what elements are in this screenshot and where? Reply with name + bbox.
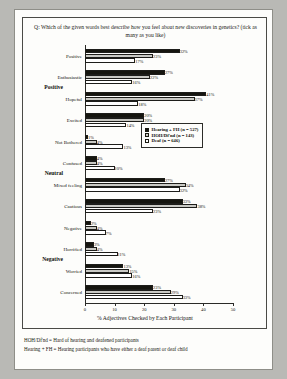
bar-value-label: 18% bbox=[138, 101, 146, 106]
legend-item: Hearing + FH (n = 527) bbox=[145, 127, 198, 132]
legend-swatch-icon bbox=[145, 128, 149, 132]
bar: 13% bbox=[85, 144, 123, 148]
bar-value-label: 22% bbox=[150, 75, 158, 80]
bar-value-label: 27% bbox=[165, 70, 173, 75]
bar: 4% bbox=[85, 247, 97, 251]
bar: 23% bbox=[85, 209, 153, 213]
category-label: Mixed feeling bbox=[54, 182, 82, 187]
bar: 16% bbox=[85, 80, 132, 84]
bar-row: Hopeful41%37%18% bbox=[85, 88, 233, 110]
bar: 14% bbox=[85, 123, 126, 127]
group-label: Positive bbox=[29, 84, 63, 90]
category-label: Concerned bbox=[60, 290, 82, 295]
bar: 7% bbox=[85, 230, 106, 234]
category-label: Confused bbox=[63, 161, 82, 166]
bar-value-label: 32% bbox=[180, 48, 188, 53]
bar: 10% bbox=[85, 166, 115, 170]
bar: 4% bbox=[85, 156, 97, 160]
category-label: Not Bothered bbox=[55, 139, 82, 144]
category-label: Positive bbox=[66, 53, 82, 58]
x-tick-label: 30 bbox=[172, 307, 177, 312]
bar: 1% bbox=[85, 135, 88, 139]
category-label: Cautious bbox=[64, 204, 82, 209]
bar-value-label: 38% bbox=[197, 204, 205, 209]
document-page: Q: Which of the given words best describ… bbox=[14, 9, 273, 370]
category-label: Negative bbox=[64, 225, 82, 230]
x-tick bbox=[85, 303, 86, 306]
x-tick-label: 50 bbox=[231, 307, 236, 312]
bar-value-label: 37% bbox=[195, 96, 203, 101]
chart-figure: Q: Which of the given words best describ… bbox=[22, 17, 267, 329]
bar-value-label: 10% bbox=[115, 166, 123, 171]
bar-row: Positive32%23%17% bbox=[85, 45, 233, 67]
bar-value-label: 32% bbox=[180, 187, 188, 192]
bar: 3% bbox=[85, 242, 94, 246]
legend-swatch-icon bbox=[145, 133, 149, 137]
x-tick bbox=[203, 303, 204, 306]
bar: 32% bbox=[85, 187, 180, 191]
bar-value-label: 16% bbox=[132, 80, 140, 85]
bar: 33% bbox=[85, 199, 183, 203]
bar: 29% bbox=[85, 290, 171, 294]
footnotes: HOH/Df'nd = Hard of hearing and deafened… bbox=[24, 336, 256, 353]
bar-row: Horrified3%4%11% bbox=[85, 239, 233, 261]
plot-area: 01020304050 Positive32%23%17%Enthusiasti… bbox=[85, 45, 233, 303]
bar: 17% bbox=[85, 58, 135, 62]
bar: 27% bbox=[85, 178, 165, 182]
bar-value-label: 11% bbox=[118, 252, 126, 257]
bar-row: Cautious33%38%23% bbox=[85, 196, 233, 218]
chart-legend: Hearing + FH (n = 527) HOH/Df'nd (n = 14… bbox=[141, 123, 203, 148]
bar: 18% bbox=[85, 101, 138, 105]
bar-row: Worried13%15%16% bbox=[85, 260, 233, 282]
chart-title: Q: Which of the given words best describ… bbox=[31, 23, 260, 39]
category-label: Worried bbox=[66, 268, 82, 273]
x-tick-label: 40 bbox=[201, 307, 206, 312]
category-label: Hopeful bbox=[66, 96, 82, 101]
legend-label: HOH/Df'nd (n = 143) bbox=[152, 133, 195, 138]
bar: 4% bbox=[85, 140, 97, 144]
legend-label: Hearing + FH (n = 527) bbox=[152, 127, 199, 132]
bar-row: Mixed feeling27%34%32% bbox=[85, 174, 233, 196]
x-axis-title: % Adjectives Checked by Each Participant bbox=[71, 315, 219, 321]
bar: 20% bbox=[85, 118, 144, 122]
bar: 32% bbox=[85, 49, 180, 53]
group-label: Neutral bbox=[29, 170, 63, 176]
bar: 33% bbox=[85, 295, 183, 299]
footnote: HOH/Df'nd = Hard of hearing and deafened… bbox=[24, 336, 256, 345]
bar: 2% bbox=[85, 221, 91, 225]
bar: 11% bbox=[85, 252, 118, 256]
bar: 4% bbox=[85, 161, 97, 165]
category-label: Horrified bbox=[63, 247, 82, 252]
bar-row: Concerned23%29%33% bbox=[85, 282, 233, 304]
group-label: Negative bbox=[29, 256, 63, 262]
legend-label: Deaf (n = 646) bbox=[152, 138, 180, 143]
legend-item: HOH/Df'nd (n = 143) bbox=[145, 133, 198, 138]
category-label: Excited bbox=[67, 118, 82, 123]
x-tick bbox=[115, 303, 116, 306]
bar: 34% bbox=[85, 183, 186, 187]
bar-row: Confused4%4%10% bbox=[85, 153, 233, 175]
bar: 38% bbox=[85, 204, 197, 208]
x-tick-label: 20 bbox=[142, 307, 147, 312]
bar-value-label: 16% bbox=[132, 273, 140, 278]
bar: 23% bbox=[85, 285, 153, 289]
legend-item: Deaf (n = 646) bbox=[145, 138, 198, 143]
bar-value-label: 23% bbox=[153, 209, 161, 214]
footnote: Hearing + FH = Hearing participants who … bbox=[24, 345, 256, 354]
x-tick-label: 0 bbox=[84, 307, 86, 312]
bar-value-label: 14% bbox=[126, 123, 134, 128]
bar-row: Enthusiastic27%22%16% bbox=[85, 67, 233, 89]
x-tick bbox=[174, 303, 175, 306]
bar-value-label: 23% bbox=[153, 53, 161, 58]
x-tick bbox=[144, 303, 145, 306]
bar-value-label: 41% bbox=[206, 91, 214, 96]
category-label: Enthusiastic bbox=[58, 75, 82, 80]
bar: 16% bbox=[85, 273, 132, 277]
bar: 4% bbox=[85, 226, 97, 230]
bar-row: Negative2%4%7% bbox=[85, 217, 233, 239]
x-tick bbox=[233, 303, 234, 306]
bar: 13% bbox=[85, 264, 123, 268]
bar-value-label: 7% bbox=[106, 230, 112, 235]
bar: 41% bbox=[85, 92, 206, 96]
bar-value-label: 33% bbox=[183, 295, 191, 300]
